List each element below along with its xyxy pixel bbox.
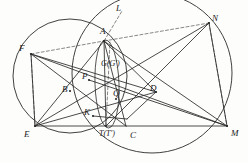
solid-lines-group xyxy=(31,23,227,126)
geometry-figure: ALNFEMCT(T')KBPQDG(G') xyxy=(0,0,248,163)
vertex-dot-F xyxy=(30,53,32,55)
segment-P-M xyxy=(89,80,227,126)
vertex-dot-P xyxy=(88,79,90,81)
segment-F-E xyxy=(31,54,35,126)
point-label-B: B xyxy=(62,85,68,94)
vertex-dot-M xyxy=(226,125,228,127)
vertex-dot-N xyxy=(208,22,210,24)
point-label-F: F xyxy=(19,44,25,53)
point-label-TT: T(T') xyxy=(99,130,115,138)
point-label-N: N xyxy=(212,14,218,23)
vertex-dot-T xyxy=(105,125,107,127)
segment-A-L xyxy=(104,11,122,41)
point-label-L: L xyxy=(116,4,121,13)
vertex-dot-Q xyxy=(115,98,117,100)
segment-F-A xyxy=(31,41,104,54)
segment-A-T xyxy=(104,41,106,126)
segment-A-E xyxy=(35,41,104,126)
diagram-canvas xyxy=(0,0,248,163)
point-label-GG: G(G') xyxy=(101,60,120,68)
segment-F-D xyxy=(31,54,156,92)
point-label-E: E xyxy=(24,130,30,139)
segment-F-M xyxy=(31,54,227,126)
point-label-A: A xyxy=(100,27,106,36)
dashed-lines-group xyxy=(31,11,227,126)
point-label-P: P xyxy=(82,72,88,81)
point-label-Q: Q xyxy=(113,89,120,98)
vertex-dot-A xyxy=(103,40,105,42)
circles-group xyxy=(13,0,232,153)
vertex-dot-E xyxy=(34,125,36,127)
point-label-K: K xyxy=(84,108,90,117)
point-label-M: M xyxy=(231,129,239,138)
vertex-dot-B xyxy=(69,90,71,92)
point-label-D: D xyxy=(150,84,157,93)
point-label-C: C xyxy=(130,131,136,140)
vertex-dot-K xyxy=(92,115,94,117)
